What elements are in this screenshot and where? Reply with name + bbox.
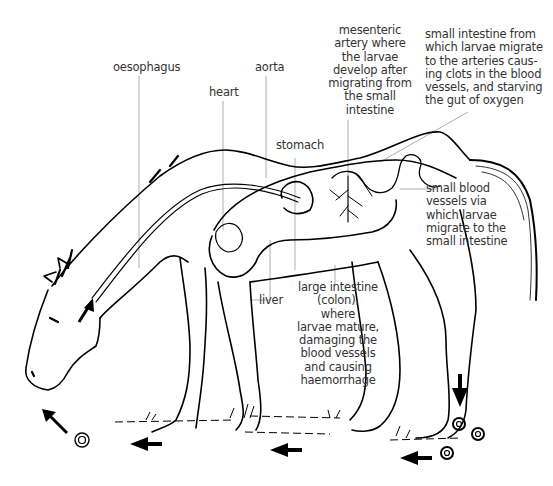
label-mesenteric-artery: mesenteric artery where the larvae devel… — [312, 24, 428, 117]
arrow-left-icon — [400, 451, 432, 465]
arrow-up-oesophagus-icon — [79, 298, 94, 322]
arrow-up-left-icon — [42, 409, 67, 433]
mane — [55, 156, 178, 284]
ground-line-4 — [390, 438, 460, 440]
foreleg-back-outer — [218, 282, 243, 430]
ground-lines — [115, 416, 460, 440]
mesenteric-vessels — [330, 174, 372, 222]
ground-line-3 — [245, 432, 330, 434]
grass — [146, 404, 410, 438]
belly — [250, 262, 378, 282]
label-liver: liver — [259, 294, 283, 307]
horse-parasite-diagram: oesophagus heart aorta stomach liver mes… — [0, 0, 553, 486]
small-intestine-leader — [380, 112, 468, 162]
foreleg-front-inner — [196, 268, 207, 428]
arrow-left-icon — [130, 437, 162, 451]
label-aorta: aorta — [255, 61, 284, 74]
label-oesophagus: oesophagus — [113, 61, 180, 74]
hindleg-far — [410, 250, 449, 438]
label-stomach: stomach — [276, 139, 324, 152]
larva-egg-icon — [75, 433, 89, 447]
label-large-intestine: large intestine (colon), where larvae ma… — [288, 281, 388, 387]
arrow-down-icon — [452, 374, 468, 407]
colon — [209, 200, 396, 277]
grass-tufts — [146, 404, 410, 438]
neck-underside — [100, 256, 188, 318]
label-small-intestine: small intestine from which larvae migrat… — [425, 28, 543, 108]
foreleg-front-outer — [152, 258, 190, 432]
label-heart: heart — [209, 86, 239, 99]
arrow-left-icon — [270, 443, 302, 457]
ground-line-2 — [250, 416, 340, 418]
liver-heart-organ — [216, 223, 243, 252]
label-small-blood-vessels: small blood vessels via which larvae mig… — [426, 182, 507, 248]
larva-egg-icon — [472, 428, 484, 440]
oesophagus-tube — [92, 184, 300, 298]
larva-egg-icon — [441, 447, 453, 459]
